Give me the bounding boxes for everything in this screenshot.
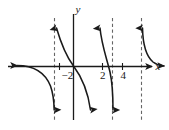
- graph-figure: −2 2 4 x y: [0, 0, 169, 130]
- curve-branch-right: [143, 28, 165, 66]
- x-tick-label-2: 2: [100, 69, 106, 81]
- x-axis-label: x: [155, 60, 161, 72]
- curve-branch-left: [17, 66, 54, 111]
- x-tick-label-4: 4: [121, 69, 127, 81]
- y-axis-label: y: [75, 3, 81, 15]
- curve-group: [17, 28, 164, 110]
- x-tick-label-neg2: −2: [62, 69, 74, 81]
- coordinate-plane-svg: −2 2 4 x y: [0, 0, 169, 130]
